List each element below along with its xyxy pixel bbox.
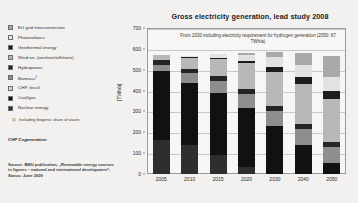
bar-segment xyxy=(266,57,283,67)
legend-label-geothermal-energy: Geothermal energy xyxy=(18,45,56,51)
y-axis-tick-mark xyxy=(143,90,146,91)
legend-item-eu-grid-interconnection: EU grid interconnection xyxy=(8,24,116,31)
footnote-text: Including biogenic share of waste xyxy=(19,117,80,122)
bar-segment xyxy=(210,93,227,155)
bar-segment xyxy=(181,83,198,145)
bar-segment xyxy=(210,155,227,174)
y-axis-tick-mark xyxy=(143,69,146,70)
footnote-marker: 1) xyxy=(12,117,16,122)
legend-swatch-photovoltaics xyxy=(8,35,13,40)
plot-annotation: From 2030 including electricity requirem… xyxy=(175,33,341,45)
y-axis: 0100200300400500600700 xyxy=(120,28,145,174)
y-axis-tick-mark xyxy=(143,132,146,133)
bar-segment xyxy=(295,65,312,77)
bar-column xyxy=(153,55,170,174)
bar-segment xyxy=(238,108,255,167)
legend-item-photovoltaics: Photovoltaics xyxy=(8,34,116,41)
legend-label-coal-gas: Coal/gas xyxy=(18,95,36,101)
bar-segment xyxy=(210,59,227,77)
y-axis-tick-mark xyxy=(143,28,146,29)
bar-segment xyxy=(323,91,340,100)
gridline xyxy=(148,29,345,30)
bar-segment xyxy=(323,163,340,174)
y-axis-tick-label: 500 xyxy=(133,67,141,73)
legend-swatch-coal-gas xyxy=(8,96,13,101)
plot-area: From 2030 including electricity requirem… xyxy=(147,28,346,174)
bar-segment xyxy=(295,84,312,124)
footnote: 1) Including biogenic share of waste xyxy=(19,117,111,122)
legend-item-nuclear-energy: Nuclear energy xyxy=(8,105,116,112)
x-axis-tick-label: 2040 xyxy=(298,176,309,182)
bar-segment xyxy=(266,72,283,106)
x-axis-tick-label: 2020 xyxy=(241,176,252,182)
chart-panel: Gross electricity generation, lead study… xyxy=(120,6,352,196)
bar-segment xyxy=(238,55,255,62)
legend-label-nuclear-energy: Nuclear energy xyxy=(18,105,48,111)
bar-segment xyxy=(210,81,227,93)
gridline xyxy=(148,50,345,51)
y-axis-tick-label: 200 xyxy=(133,129,141,135)
x-axis-tick-label: 2010 xyxy=(184,176,195,182)
bar-segment xyxy=(266,126,283,174)
legend-footnote-marker-biomass: 1 xyxy=(35,75,37,79)
chart-title: Gross electricity generation, lead study… xyxy=(150,12,350,21)
bar-column xyxy=(295,53,312,174)
bar-segment xyxy=(323,147,340,163)
y-axis-tick-mark xyxy=(143,111,146,112)
legend-swatch-hydropower xyxy=(8,65,13,70)
y-axis-tick-label: 400 xyxy=(133,88,141,94)
x-axis-tick-label: 2030 xyxy=(269,176,280,182)
legend-label-eu-grid-interconnection: EU grid interconnection xyxy=(18,25,65,31)
legend-swatch-wind-energy xyxy=(8,55,13,60)
legend-item-geothermal-energy: Geothermal energy xyxy=(8,44,116,51)
legend-item-coal-gas: Coal/gas xyxy=(8,95,116,102)
legend-swatch-geothermal-energy xyxy=(8,45,13,50)
chart-legend: EU grid interconnection Photovoltaics Ge… xyxy=(8,24,116,115)
bar-segment xyxy=(266,111,283,126)
figure-root: EU grid interconnection Photovoltaics Ge… xyxy=(0,0,358,203)
bar-segment xyxy=(181,73,198,82)
legend-label-hydropower: Hydropower xyxy=(18,65,42,71)
bar-segment xyxy=(238,167,255,174)
legend-label-photovoltaics: Photovoltaics xyxy=(18,35,45,41)
legend-item-hydropower: Hydropower xyxy=(8,64,116,71)
y-axis-tick-label: 600 xyxy=(133,46,141,52)
bar-segment xyxy=(323,56,340,76)
bar-segment xyxy=(238,63,255,89)
bar-segment xyxy=(153,71,170,140)
chp-abbreviation-note: CHP Cogeneration xyxy=(8,137,47,142)
x-axis-tick-label: 2050 xyxy=(326,176,337,182)
y-axis-tick-mark xyxy=(143,48,146,49)
bar-segment xyxy=(295,77,312,84)
legend-item-biomass: Biomass1 xyxy=(8,74,116,81)
legend-item-chp-fossil: CHP, fossil xyxy=(8,85,116,92)
bar-segment xyxy=(181,58,198,69)
x-axis-tick-label: 2015 xyxy=(213,176,224,182)
bar-column xyxy=(238,53,255,174)
legend-swatch-eu-grid-interconnection xyxy=(8,25,13,30)
legend-label-chp-fossil: CHP, fossil xyxy=(18,85,40,91)
y-axis-tick-label: 100 xyxy=(133,150,141,156)
bar-column xyxy=(323,56,340,174)
legend-label-biomass: Biomass1 xyxy=(18,74,37,82)
y-axis-label: [TWh/a] xyxy=(116,83,122,101)
x-axis-tick-label: 2005 xyxy=(156,176,167,182)
legend-item-wind-energy: Wind en. (onshore/offshore) xyxy=(8,54,116,61)
source-note: Source: BMU publication, „Renewable ener… xyxy=(8,162,116,178)
bar-segment xyxy=(295,145,312,174)
bar-segment xyxy=(295,53,312,66)
bar-segment xyxy=(181,145,198,174)
bar-column xyxy=(181,56,198,174)
bar-segment xyxy=(323,99,340,142)
bar-segment xyxy=(323,77,340,91)
bar-column xyxy=(210,54,227,174)
legend-swatch-chp-fossil xyxy=(8,86,13,91)
y-axis-tick-label: 700 xyxy=(133,25,141,31)
y-axis-tick-label: 0 xyxy=(138,171,141,177)
legend-swatch-biomass xyxy=(8,75,13,80)
legend-label-wind-energy: Wind en. (onshore/offshore) xyxy=(18,55,74,61)
bar-column xyxy=(266,52,283,174)
legend-swatch-nuclear-energy xyxy=(8,106,13,111)
x-axis: 2005201020152020203020402050 xyxy=(147,176,346,188)
y-axis-tick-label: 300 xyxy=(133,108,141,114)
